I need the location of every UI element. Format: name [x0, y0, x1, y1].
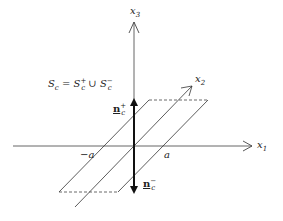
crack-surface-equation: Sc = S+c ∪ S−c: [48, 78, 112, 92]
x1-label: x1: [257, 140, 267, 153]
x2-label: x2: [195, 74, 205, 87]
x3-label: x3: [130, 6, 140, 19]
normal-minus-label: n−c: [143, 178, 155, 192]
normal-minus-arrowhead-icon: [130, 186, 138, 194]
diagram-canvas: [0, 0, 283, 221]
tick-pos-a: a: [164, 150, 170, 160]
tick-neg-a: −a: [80, 150, 94, 160]
normal-plus-arrowhead-icon: [130, 98, 138, 106]
normal-plus-label: n+c: [113, 103, 125, 117]
